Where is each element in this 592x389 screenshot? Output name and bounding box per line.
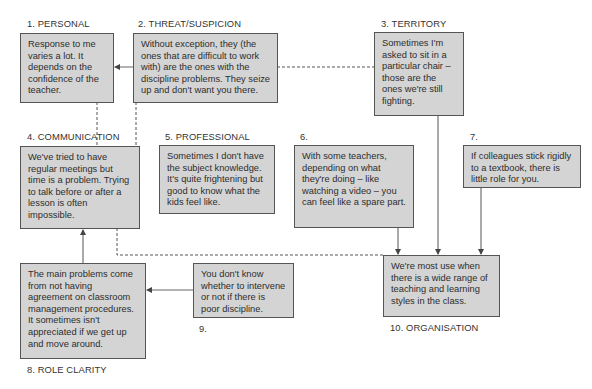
node-5-label: 5. PROFESSIONAL [165, 131, 250, 142]
edge-4-to-10 [117, 228, 383, 255]
node-1-label: 1. PERSONAL [27, 18, 90, 29]
node-6-label: 6. [300, 131, 308, 142]
node-3-label: 3. TERRITORY [381, 18, 446, 29]
node-2-label: 2. THREAT/SUSPICION [138, 18, 241, 29]
node-5-box: Sometimes I don't have the subject knowl… [159, 145, 275, 214]
diagram-canvas: 1. PERSONAL Response to me varies a lot.… [0, 0, 592, 389]
node-1-box: Response to me varies a lot. It depends … [20, 33, 114, 103]
node-9-label: 9. [199, 323, 207, 334]
node-8-box: The main problems come from not having a… [20, 263, 146, 359]
node-2-box: Without exception, they (the ones that a… [133, 33, 278, 103]
node-9-box: You don't know whether to intervene or n… [193, 263, 294, 318]
node-4-label: 4. COMMUNICATION [27, 131, 120, 142]
node-7-box: If colleagues stick rigidly to a textboo… [463, 145, 581, 188]
node-10-box: We're most use when there is a wide rang… [383, 255, 500, 317]
node-8-label: 8. ROLE CLARITY [27, 364, 107, 375]
node-7-label: 7. [470, 131, 478, 142]
node-4-box: We've tried to have regular meetings but… [20, 146, 140, 229]
node-3-box: Sometimes I'm asked to sit in a particul… [374, 32, 464, 116]
node-6-box: With some teachers, depending on what th… [294, 145, 414, 228]
node-10-label: 10. ORGANISATION [390, 322, 478, 333]
